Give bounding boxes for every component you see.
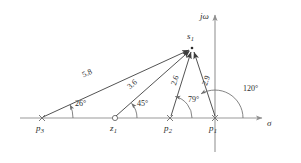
test-point-letter: s [187, 31, 191, 41]
axis-group [20, 15, 262, 152]
point-subscript-p1: 1 [214, 127, 217, 134]
point-letter-p1: p [209, 123, 214, 133]
angle-arc-p1 [201, 90, 243, 118]
imaginary-axis-label: jω [200, 12, 209, 21]
point-letter-p2: p [164, 123, 169, 133]
point-subscript-p3: 3 [41, 127, 44, 134]
angle-arc-p3 [70, 105, 73, 118]
diagram-canvas [0, 0, 301, 163]
test-point-subscript: 1 [191, 35, 194, 42]
point-letter-z1: z [110, 123, 114, 133]
angle-label-p1: 120° [243, 85, 258, 93]
angle-label-p3: 26° [75, 100, 86, 108]
point-label-p1: p1 [209, 124, 217, 134]
vector-p3-to-s1 [43, 50, 189, 117]
pole-zero-diagram: jω σ s1 p3 z1 p2 p1 5.8 3.6 2.6 2.9 26° … [0, 0, 301, 163]
zero-marker-z1 [112, 115, 117, 120]
point-label-p3: p3 [36, 124, 44, 134]
angle-arc-group [70, 90, 243, 118]
angle-label-z1: 45° [137, 100, 148, 108]
test-point-s1-marker [191, 47, 194, 50]
test-point-label-s1: s1 [187, 32, 194, 42]
real-axis-label: σ [267, 119, 271, 128]
point-label-z1: z1 [110, 124, 117, 134]
point-subscript-p2: 2 [169, 127, 172, 134]
angle-label-p2: 79° [188, 96, 199, 104]
point-letter-p3: p [36, 123, 41, 133]
point-subscript-z1: 1 [114, 127, 117, 134]
point-label-p2: p2 [164, 124, 172, 134]
